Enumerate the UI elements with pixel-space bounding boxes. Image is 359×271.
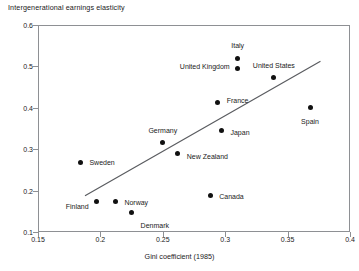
scatter-chart-figure: Intergenerational earnings elasticity 0.… (0, 0, 359, 271)
trend-line (0, 0, 359, 271)
x-axis-title: Gini coefficient (1985) (0, 252, 359, 261)
